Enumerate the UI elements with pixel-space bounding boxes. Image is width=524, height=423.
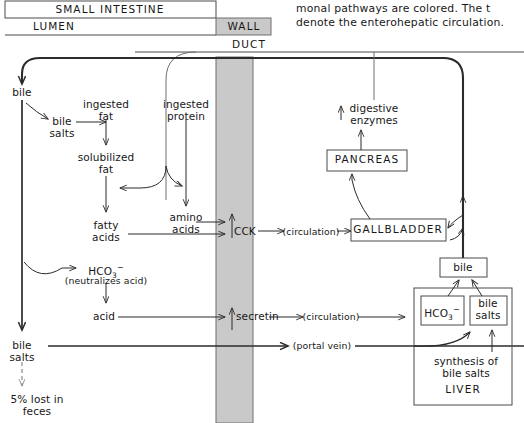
fatty-acids-label: fatty acids: [92, 220, 120, 243]
gallbladder-label: GALLBLADDER: [353, 224, 443, 236]
feces-loss-line1: 5% lost in: [11, 393, 64, 405]
enzymes-to-aminoacids: [166, 166, 182, 186]
bilesalts-bottom-line1: bile: [12, 339, 31, 351]
solubilized-fat-label: solubilized fat: [78, 152, 135, 175]
bilesalts-liver-line2: salts: [476, 309, 501, 321]
acid-label: acid: [93, 311, 115, 323]
duct-label: DUCT: [232, 39, 266, 51]
bile-salts-liver-label: bile salts: [476, 298, 501, 321]
ingested-protein-line2: protein: [167, 110, 205, 122]
intestinal-wall-band: [216, 57, 253, 423]
synthesis-line2: bile salts: [442, 367, 490, 379]
portalvein-to-bilesalts: [414, 332, 470, 346]
gallbladder-to-duct: [450, 228, 463, 240]
hco3-liver-main: HCO: [424, 307, 448, 319]
feces-loss-label: 5% lost in feces: [11, 394, 64, 417]
enzymes-line1: digestive: [350, 102, 399, 114]
circulation-secretin-label: (circulation): [303, 311, 360, 323]
small-intestine-title: SMALL INTESTINE: [55, 4, 164, 16]
bile-lumen-label: bile: [12, 87, 31, 99]
synthesis-line1: synthesis of: [434, 355, 498, 367]
cck-label: CCK: [234, 226, 256, 238]
hco3-liver-label: HCO3−: [424, 304, 459, 323]
amino-line2: acids: [172, 223, 200, 235]
bile-to-hco3: [24, 262, 76, 274]
digestive-enzymes-label: digestive enzymes: [350, 103, 399, 126]
bile-salts-bottom-label: bile salts: [10, 340, 35, 363]
ingested-fat-line1: ingested: [83, 98, 129, 110]
gallbladder-to-pancreas: [352, 174, 370, 219]
portal-vein-label: (portal vein): [293, 340, 352, 352]
ingested-fat-line2: fat: [99, 110, 114, 122]
bilesalts-lumen-line1: bile: [52, 115, 71, 127]
amino-acids-label: amino acids: [169, 212, 202, 235]
circulation-cck-label: (circulation): [283, 226, 340, 238]
liver-label: LIVER: [445, 384, 481, 396]
synthesis-label: synthesis of bile salts: [434, 356, 498, 379]
feces-loss-line2: feces: [23, 405, 51, 417]
secretin-label: secretin: [236, 311, 279, 323]
ingested-protein-line1: ingested: [163, 98, 209, 110]
duct-to-gallbladder: [448, 215, 463, 228]
enzymes-line2: enzymes: [350, 114, 398, 126]
figure-canvas: SMALL INTESTINE LUMEN WALL DUCT monal pa…: [0, 0, 524, 423]
fatty-line1: fatty: [93, 219, 118, 231]
bile-liver-label: bile: [453, 262, 472, 274]
fatty-line2: acids: [92, 231, 120, 243]
pancreas-label: PANCREAS: [335, 154, 400, 166]
bilesalts-liver-line1: bile: [478, 297, 497, 309]
caption-line-2: denote the enterohepatic circulation.: [296, 16, 504, 30]
amino-line1: amino: [169, 211, 202, 223]
bile-salts-lumen-label: bile salts: [50, 116, 75, 139]
bilesalts-bottom-line2: salts: [10, 351, 35, 363]
bilesalts-lumen-line2: salts: [50, 127, 75, 139]
lumen-label: LUMEN: [33, 21, 75, 33]
solubilized-line2: fat: [99, 163, 114, 175]
hco3-note-label: (neutralizes acid): [65, 275, 148, 287]
ingested-fat-label: ingested fat: [83, 99, 129, 122]
wall-label: WALL: [227, 21, 260, 33]
hco3-lumen-charge: −: [117, 263, 124, 272]
ingested-protein-label: ingested protein: [163, 99, 209, 122]
bile-to-salts-branch: [26, 103, 48, 119]
caption-line-1: monal pathways are colored. The t: [296, 2, 490, 16]
hco3-liver-charge: −: [453, 305, 460, 314]
solubilized-line1: solubilized: [78, 151, 135, 163]
